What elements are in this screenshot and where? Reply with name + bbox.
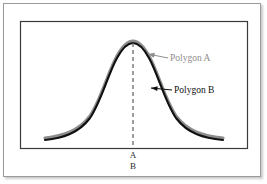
frequency-polygon-chart: Polygon A Polygon B A B (0, 0, 267, 184)
polygon-b-label: Polygon B (174, 85, 214, 95)
polygon-a-annotation: Polygon A (148, 53, 211, 63)
figure-root: Polygon A Polygon B A B (0, 0, 267, 184)
axis-label-b: B (130, 161, 136, 171)
polygon-a-label: Polygon A (170, 53, 211, 63)
axis-label-a: A (130, 150, 137, 160)
